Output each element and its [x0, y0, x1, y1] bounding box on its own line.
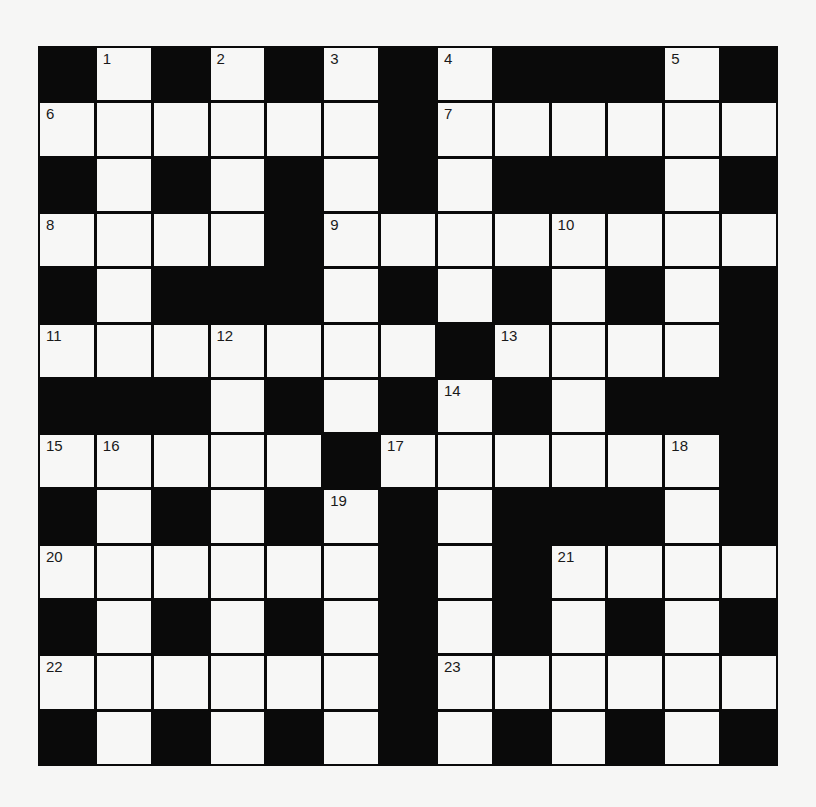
crossword-cell[interactable]	[267, 546, 321, 598]
crossword-cell[interactable]	[154, 325, 208, 377]
crossword-cell[interactable]: 6	[40, 103, 94, 155]
crossword-cell[interactable]: 16	[97, 435, 151, 487]
crossword-cell[interactable]	[154, 103, 208, 155]
crossword-cell[interactable]	[552, 712, 606, 764]
crossword-cell[interactable]	[495, 103, 549, 155]
crossword-cell[interactable]	[665, 214, 719, 266]
crossword-cell[interactable]	[608, 325, 662, 377]
crossword-cell[interactable]: 18	[665, 435, 719, 487]
crossword-cell[interactable]	[97, 601, 151, 653]
crossword-cell[interactable]: 15	[40, 435, 94, 487]
crossword-cell[interactable]	[665, 601, 719, 653]
crossword-cell[interactable]	[665, 656, 719, 708]
crossword-cell[interactable]	[324, 325, 378, 377]
crossword-cell[interactable]	[722, 214, 776, 266]
crossword-cell[interactable]	[97, 103, 151, 155]
crossword-cell[interactable]: 17	[381, 435, 435, 487]
crossword-cell[interactable]: 5	[665, 48, 719, 100]
crossword-cell[interactable]	[324, 712, 378, 764]
crossword-cell[interactable]	[438, 159, 492, 211]
crossword-cell[interactable]	[211, 435, 265, 487]
crossword-cell[interactable]	[211, 159, 265, 211]
crossword-cell[interactable]	[267, 103, 321, 155]
crossword-cell[interactable]	[211, 546, 265, 598]
crossword-cell[interactable]	[211, 656, 265, 708]
crossword-cell[interactable]	[665, 325, 719, 377]
crossword-cell[interactable]: 2	[211, 48, 265, 100]
crossword-cell[interactable]	[552, 601, 606, 653]
crossword-cell[interactable]	[608, 656, 662, 708]
crossword-cell[interactable]	[97, 546, 151, 598]
crossword-cell[interactable]: 21	[552, 546, 606, 598]
crossword-cell[interactable]	[97, 490, 151, 542]
crossword-cell[interactable]	[267, 656, 321, 708]
crossword-cell[interactable]	[552, 103, 606, 155]
crossword-cell[interactable]: 13	[495, 325, 549, 377]
crossword-cell[interactable]	[438, 269, 492, 321]
crossword-cell[interactable]	[97, 269, 151, 321]
crossword-cell[interactable]	[97, 712, 151, 764]
crossword-cell[interactable]	[154, 214, 208, 266]
crossword-cell[interactable]	[722, 546, 776, 598]
crossword-cell[interactable]: 11	[40, 325, 94, 377]
crossword-cell[interactable]	[324, 601, 378, 653]
crossword-cell[interactable]: 9	[324, 214, 378, 266]
crossword-cell[interactable]	[211, 712, 265, 764]
crossword-cell[interactable]: 7	[438, 103, 492, 155]
crossword-cell[interactable]	[211, 601, 265, 653]
crossword-cell[interactable]	[552, 269, 606, 321]
crossword-cell[interactable]: 8	[40, 214, 94, 266]
crossword-cell[interactable]	[154, 546, 208, 598]
crossword-cell[interactable]	[381, 214, 435, 266]
crossword-cell[interactable]	[608, 546, 662, 598]
crossword-cell[interactable]: 1	[97, 48, 151, 100]
crossword-cell[interactable]	[552, 656, 606, 708]
crossword-cell[interactable]	[438, 214, 492, 266]
crossword-cell[interactable]	[608, 435, 662, 487]
crossword-cell[interactable]	[97, 214, 151, 266]
crossword-cell[interactable]	[552, 380, 606, 432]
crossword-cell[interactable]	[97, 159, 151, 211]
crossword-cell[interactable]	[154, 435, 208, 487]
crossword-cell[interactable]	[438, 490, 492, 542]
crossword-cell[interactable]: 3	[324, 48, 378, 100]
crossword-cell[interactable]	[665, 103, 719, 155]
crossword-cell[interactable]	[495, 435, 549, 487]
crossword-cell[interactable]	[97, 656, 151, 708]
crossword-cell[interactable]	[438, 712, 492, 764]
crossword-cell[interactable]	[665, 546, 719, 598]
crossword-cell[interactable]: 14	[438, 380, 492, 432]
crossword-cell[interactable]: 20	[40, 546, 94, 598]
crossword-cell[interactable]	[665, 712, 719, 764]
crossword-cell[interactable]	[97, 325, 151, 377]
crossword-cell[interactable]: 10	[552, 214, 606, 266]
crossword-cell[interactable]	[665, 490, 719, 542]
crossword-cell[interactable]	[324, 656, 378, 708]
crossword-cell[interactable]	[552, 325, 606, 377]
crossword-cell[interactable]	[211, 103, 265, 155]
crossword-cell[interactable]	[154, 656, 208, 708]
crossword-cell[interactable]	[608, 214, 662, 266]
crossword-cell[interactable]	[722, 103, 776, 155]
crossword-cell[interactable]	[267, 435, 321, 487]
crossword-cell[interactable]	[495, 214, 549, 266]
crossword-cell[interactable]	[495, 656, 549, 708]
crossword-cell[interactable]	[211, 490, 265, 542]
crossword-cell[interactable]	[324, 159, 378, 211]
crossword-cell[interactable]	[438, 435, 492, 487]
crossword-cell[interactable]	[324, 546, 378, 598]
crossword-cell[interactable]: 12	[211, 325, 265, 377]
crossword-cell[interactable]	[324, 380, 378, 432]
crossword-cell[interactable]	[722, 656, 776, 708]
crossword-cell[interactable]	[608, 103, 662, 155]
crossword-cell[interactable]	[381, 325, 435, 377]
crossword-cell[interactable]: 4	[438, 48, 492, 100]
crossword-cell[interactable]	[438, 601, 492, 653]
crossword-cell[interactable]	[438, 546, 492, 598]
crossword-cell[interactable]	[267, 325, 321, 377]
crossword-cell[interactable]: 23	[438, 656, 492, 708]
crossword-cell[interactable]: 19	[324, 490, 378, 542]
crossword-cell[interactable]	[665, 269, 719, 321]
crossword-cell[interactable]	[211, 214, 265, 266]
crossword-cell[interactable]	[552, 435, 606, 487]
